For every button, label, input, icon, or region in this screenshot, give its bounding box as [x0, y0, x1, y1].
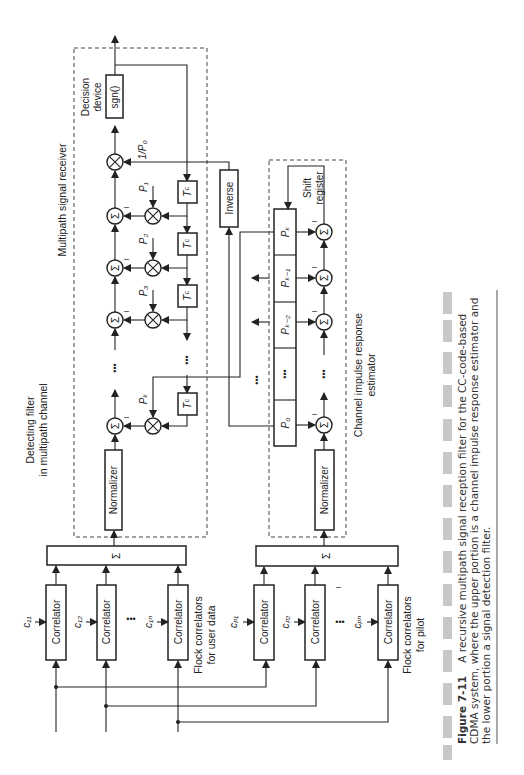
- minus-sign: –: [124, 254, 129, 264]
- flock-label-pilot-2: for pilot: [414, 618, 426, 653]
- tap-3: Σ – P₃ Tᶜ: [107, 285, 197, 340]
- tap-coef: P₃: [138, 286, 149, 297]
- svg-text:Correlator: Correlator: [259, 599, 270, 644]
- correlator-ellipsis: •••: [126, 614, 135, 624]
- decision-label-1: Decision: [80, 78, 91, 116]
- shift-label-2: register: [314, 171, 325, 205]
- p0-route: [229, 228, 274, 426]
- delay-label: Tᶜ: [182, 187, 193, 197]
- input-signal-lines: [54, 661, 388, 732]
- svg-text:–: –: [312, 216, 317, 226]
- cell-pk-2: Pₖ₋₂: [280, 315, 291, 335]
- sum-icon: Σ: [319, 229, 330, 235]
- tap-coef: P₂: [138, 234, 149, 245]
- svg-text:Correlator: Correlator: [173, 599, 184, 644]
- figure-canvas: sgn() Decision device 1/P₀ Inverse ••• Σ…: [0, 0, 524, 775]
- flock-label-pilot-1: Flock correlators: [401, 596, 413, 674]
- caption-line-2: CDMA system, where the upper portion is …: [468, 298, 480, 744]
- tap-coef: Pₖ: [138, 393, 149, 405]
- svg-text:–: –: [312, 409, 317, 419]
- output-ellipsis: •••: [252, 375, 262, 384]
- estimator-sums: Σ Σ Σ ••• Σ – – – –: [296, 216, 332, 450]
- sum-icon: Σ: [319, 275, 330, 281]
- sum-icon: Σ: [319, 319, 330, 325]
- sgn-label: sgn(): [109, 86, 120, 109]
- minus-sign: –: [124, 412, 129, 422]
- shift-label-1: Shift: [302, 178, 313, 198]
- sum-bar-label: Σ: [111, 553, 122, 559]
- sum-icon: Σ: [110, 423, 121, 429]
- svg-text:Correlator: Correlator: [310, 599, 321, 644]
- normalizer-label-upper: Normalizer: [108, 465, 119, 514]
- figure-number: Figure 7-11: [456, 676, 468, 744]
- caption-line-3: the lower portion a signal detection fil…: [480, 527, 492, 744]
- detecting-filter-label-2: in multipath channel: [37, 383, 49, 476]
- chain-ellipsis: •••: [110, 363, 120, 372]
- correlator-ellipsis: •••: [335, 617, 344, 627]
- svg-text:Correlator: Correlator: [383, 599, 394, 644]
- cell-pk: Pₖ: [280, 226, 291, 238]
- normalizer-label-lower: Normalizer: [319, 465, 330, 514]
- svg-text:–: –: [312, 306, 317, 316]
- svg-text:Figure 7-11 A recursive: Figure 7-11 A recursive multipath signal…: [456, 314, 468, 744]
- delay-label: Tᶜ: [182, 239, 193, 249]
- minus-sign: –: [124, 202, 129, 212]
- tap-2: Σ – P₂ Tᶜ: [107, 233, 197, 285]
- multipath-signal-receiver: sgn() Decision device 1/P₀ Inverse ••• Σ…: [24, 36, 238, 537]
- code-cp1: cₚ₁: [228, 616, 239, 628]
- sum-bar-label: Σ: [321, 553, 332, 559]
- svg-text:–: –: [336, 582, 341, 592]
- scale-label: 1/P₀: [137, 140, 148, 159]
- code-c1n: c₁ₙ: [143, 615, 154, 628]
- inverse-label: Inverse: [224, 181, 235, 214]
- svg-text:Correlator: Correlator: [101, 599, 112, 644]
- sum-ellipsis: •••: [319, 369, 329, 378]
- code-c11: c₁₁: [21, 616, 32, 627]
- flock-label-user-1: Flock correlators: [192, 596, 204, 674]
- user-data-correlators: Σ Correlator Correlator Correlator c₁₁ c…: [21, 531, 217, 674]
- code-cp2: cₚ₂: [280, 615, 291, 628]
- tap-1: Σ – P₁ Tᶜ: [107, 181, 197, 233]
- pk-route: [153, 232, 274, 417]
- svg-text:–: –: [312, 262, 317, 272]
- caption-line-1: A recursive multipath signal reception f…: [456, 314, 468, 663]
- code-c12: c₁₂: [72, 616, 83, 628]
- estimator-label-2: estimator: [365, 353, 377, 397]
- code-cpn: cₚₙ: [352, 615, 363, 629]
- minus-sign: –: [124, 306, 129, 316]
- sum-icon: Σ: [110, 265, 121, 271]
- tap-coef: P₁: [138, 182, 149, 192]
- sum-icon: Σ: [110, 213, 121, 219]
- flock-label-user-2: for user data: [205, 605, 217, 664]
- delay-label: Tᶜ: [182, 399, 193, 409]
- detecting-filter-label-1: Detecting filter: [24, 396, 36, 464]
- cell-p0: P₀: [280, 418, 291, 429]
- sum-icon: Σ: [319, 422, 330, 428]
- cell-pk-1: Pₖ₋₁: [280, 269, 291, 288]
- figure-caption: Figure 7-11 A recursive multipath signal…: [443, 290, 497, 760]
- svg-text:Correlator: Correlator: [51, 599, 62, 644]
- pilot-correlators: Σ Correlator Correlator Correlator cₚ₁ c…: [228, 531, 426, 674]
- cell-ellipsis: •••: [280, 369, 290, 378]
- delay-ellipsis: •••: [182, 355, 192, 364]
- estimator-label-1: Channel impulse response: [352, 313, 364, 437]
- sum-icon: Σ: [110, 317, 121, 323]
- channel-impulse-response-estimator: Pₖ Pₖ₋₁ Pₖ₋₂ ••• P₀ ••• Shift register Σ…: [252, 160, 377, 537]
- tap-k: Σ – Pₖ Tᶜ: [107, 393, 197, 434]
- feedback-line: [115, 65, 187, 181]
- receiver-section-label: Multipath signal receiver: [56, 143, 68, 257]
- decision-label-2: device: [92, 82, 103, 111]
- inverse-output-line: [124, 162, 229, 170]
- delay-label: Tᶜ: [182, 291, 193, 301]
